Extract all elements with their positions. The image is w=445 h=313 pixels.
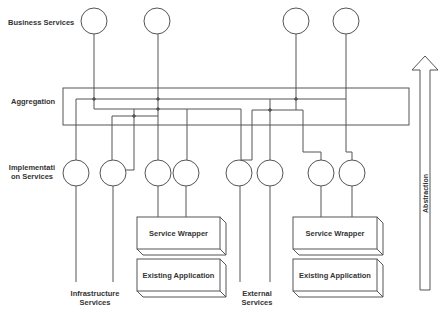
external-services-label: External Services [236,289,278,307]
service-wrapper-label-right: Service Wrapper [293,229,377,238]
implementation-service-node [173,160,199,186]
existing-application-label-right: Existing Application [293,271,377,280]
implementation-service-node [257,160,283,186]
abstraction-label: Abstraction [422,168,429,220]
implementation-service-node [308,160,334,186]
implementation-label-line2: on Services [8,172,56,181]
business-service-node [333,8,359,34]
existing-application-label-left: Existing Application [137,271,220,280]
implementation-service-node [226,160,252,186]
connection-lines [76,34,352,170]
business-service-node [283,8,309,34]
implementation-label-line1: Implementati [8,163,56,172]
business-service-node [144,8,170,34]
external-label-line2: Services [236,298,278,307]
business-services-label: Business Services [8,18,74,27]
infrastructure-label-line2: Services [64,298,126,307]
business-service-node [81,8,107,34]
implementation-service-node [339,160,365,186]
aggregation-layer-box [63,88,409,125]
implementation-service-node [63,160,89,186]
implementation-service-node [145,160,171,186]
infrastructure-label-line1: Infrastructure [64,289,126,298]
service-wrapper-label-left: Service Wrapper [137,229,220,238]
implementation-service-node [100,160,126,186]
implementation-services [63,160,365,186]
architecture-diagram [0,0,445,313]
implementation-services-label: Implementati on Services [8,163,56,181]
business-services [81,8,359,34]
external-label-line1: External [236,289,278,298]
aggregation-label: Aggregation [11,97,55,106]
infrastructure-services-label: Infrastructure Services [64,289,126,307]
